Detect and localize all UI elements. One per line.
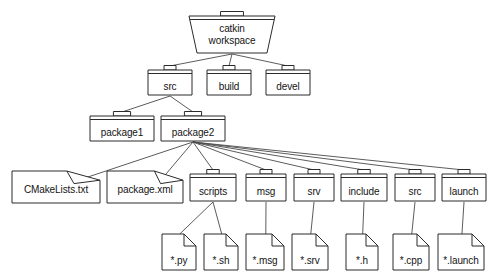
edge-launch-to-launchfile [462,202,464,234]
node-devel[interactable]: devel [265,64,311,96]
node-label-srv: srv [293,186,335,197]
node-launchfile[interactable]: *.launch [437,233,485,271]
edge-scripts-to-sh [213,202,222,234]
node-srv[interactable]: srv [293,168,335,202]
node-src[interactable]: src [147,64,193,96]
node-label-include: include [340,186,388,197]
node-label-srvfile: *.srv [291,255,329,266]
node-srcpkg[interactable]: src [394,168,436,202]
node-label-cppfile: *.cpp [392,255,430,266]
node-package1[interactable]: package1 [89,110,155,142]
node-label-devel: devel [265,81,311,92]
node-launch[interactable]: launch [441,168,487,202]
node-label-sh: *.sh [203,255,239,266]
node-cmakelists[interactable]: CMakeLists.txt [11,170,101,204]
node-label-py: *.py [161,255,197,266]
node-label-msgfile: *.msg [245,255,285,266]
edge-package2-to-srv [193,142,314,170]
node-include[interactable]: include [340,168,388,202]
node-label-src: src [147,81,193,92]
node-srvfile[interactable]: *.srv [291,233,329,271]
node-label-build: build [206,81,252,92]
node-label-launchfile: *.launch [437,255,485,266]
node-msg[interactable]: msg [245,168,287,202]
node-label-scripts: scripts [189,186,237,197]
node-sh[interactable]: *.sh [203,233,239,271]
node-package2[interactable]: package2 [160,110,226,142]
node-hfile[interactable]: *.h [345,233,379,271]
node-py[interactable]: *.py [161,233,197,271]
node-scripts[interactable]: scripts [189,168,237,202]
edge-package2-to-include [193,142,364,170]
node-label-msg: msg [245,186,287,197]
node-label-launch: launch [441,186,487,197]
node-ws[interactable]: catkinworkspace [188,10,276,54]
edge-package2-to-launch [193,142,464,170]
folder-tree-diagram: catkinworkspacesrcbuilddevelpackage1pack… [0,0,494,276]
edge-include-to-hfile [363,202,364,234]
node-label-hfile: *.h [345,255,379,266]
node-cppfile[interactable]: *.cpp [392,233,430,271]
node-label-packagexml: package.xml [106,184,184,195]
node-build[interactable]: build [206,64,252,96]
node-label-package1: package1 [89,127,155,138]
node-label-cmakelists: CMakeLists.txt [11,184,101,195]
node-label-ws: catkinworkspace [188,23,276,46]
edge-srcpkg-to-cppfile [412,202,415,234]
node-label-package2: package2 [160,127,226,138]
node-msgfile[interactable]: *.msg [245,233,285,271]
edge-srv-to-srvfile [311,202,314,234]
node-packagexml[interactable]: package.xml [106,170,184,204]
edge-scripts-to-py [180,202,213,234]
edge-package2-to-srcpkg [193,142,415,170]
node-label-srcpkg: src [394,186,436,197]
